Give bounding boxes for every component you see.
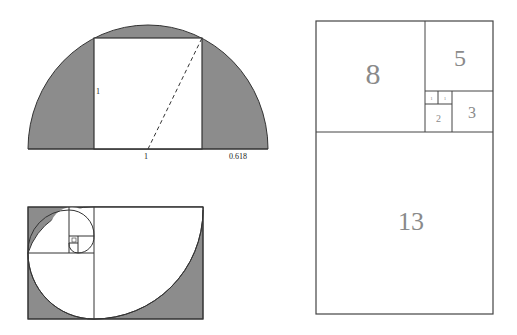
fibonacci-rectangle: 8 5 3 2 1 1 13: [316, 21, 493, 314]
square-3-label: 3: [468, 104, 476, 121]
square-13-label: 13: [398, 207, 424, 236]
small-spiral-fill: [50, 207, 94, 251]
outer-rect: [316, 21, 493, 314]
extension-label: 0.618: [229, 152, 247, 161]
semicircle-figure: 1 1 0.618: [28, 25, 268, 161]
square-5-label: 5: [454, 45, 466, 71]
unit-square: [94, 38, 202, 149]
base-label: 1: [144, 152, 148, 161]
spiral-figure: [28, 207, 203, 319]
square-2-label: 2: [436, 113, 441, 124]
square-8-label: 8: [366, 57, 381, 90]
side-label: 1: [96, 87, 100, 96]
golden-ratio-diagram: 1 1 0.618 8 5 3 2 1 1 13: [0, 0, 517, 335]
